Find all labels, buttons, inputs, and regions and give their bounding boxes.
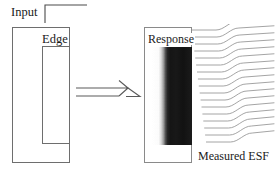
response-gradient-noise — [152, 47, 192, 145]
edge-label: Edge — [41, 33, 69, 46]
right-arrow-icon — [76, 80, 144, 106]
measured-esf-curves — [192, 24, 275, 152]
response-edge-image — [152, 47, 192, 145]
esf-curve — [200, 82, 274, 93]
measured-esf-label: Measured ESF — [198, 150, 269, 162]
esf-curve — [201, 89, 274, 100]
esf-curve — [193, 26, 274, 37]
esf-curve — [195, 40, 274, 51]
step-edge-icon — [44, 2, 88, 24]
esf-curve — [198, 68, 274, 79]
esf-curve — [206, 131, 274, 142]
esf-curve — [197, 61, 274, 72]
esf-curve — [202, 96, 274, 107]
esf-curve — [206, 124, 275, 135]
esf-curve — [194, 33, 274, 44]
esf-curve — [196, 47, 274, 58]
esf-curve — [197, 54, 275, 65]
esf-curve — [199, 75, 274, 86]
esf-curve — [192, 24, 274, 30]
esf-curve — [205, 117, 274, 128]
esf-curve-group — [192, 24, 274, 142]
esf-curve — [204, 110, 274, 121]
esf-diagram: Input Edge Response Measured ESF — [0, 0, 275, 177]
esf-curve — [203, 103, 274, 114]
response-label: Response — [147, 33, 195, 45]
input-label: Input — [11, 6, 37, 19]
edge-target-inner-box — [42, 46, 70, 144]
